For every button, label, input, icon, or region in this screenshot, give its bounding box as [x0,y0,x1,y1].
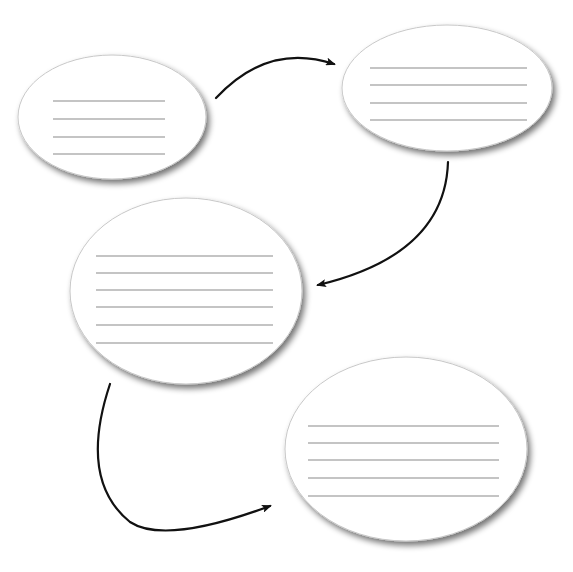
node-3 [70,198,302,384]
arrow-1-2 [216,58,334,98]
arrow-2-3 [318,162,448,285]
node-4 [285,357,527,541]
arrow-3-4 [98,384,270,531]
node-ellipse [342,25,552,151]
node-ellipse [18,55,206,179]
node-1 [18,55,206,179]
node-ellipse [285,357,527,541]
node-ellipse [70,198,302,384]
flow-diagram [0,0,573,572]
node-2 [342,25,552,151]
